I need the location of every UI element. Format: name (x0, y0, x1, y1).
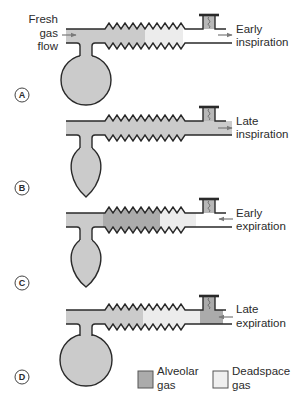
panel-a: Early inspiration (60, 14, 288, 105)
legend-deadspace-line1: Deadspace (232, 365, 290, 377)
phase-label-line1: Late (236, 115, 258, 127)
legend-item-alveolar: Alveolar gas (138, 365, 199, 391)
fresh-gas-label-line1: Fresh (29, 13, 58, 25)
svg-text:B: B (19, 183, 26, 193)
svg-text:D: D (19, 372, 26, 382)
phase-label-line2: expiration (236, 317, 286, 329)
legend: Alveolar gas Deadspace gas (138, 365, 290, 391)
panel-label-b: B (15, 181, 29, 195)
fresh-gas-flow-label: Fresh gas flow (29, 13, 59, 52)
reservoir-bag-collapsed (71, 148, 101, 197)
tube-gas-fill (60, 295, 223, 340)
tube-top-wall (66, 108, 226, 121)
phase-label-line1: Early (236, 23, 262, 35)
tube-gas-fill (60, 198, 215, 243)
legend-item-deadspace: Deadspace gas (213, 365, 290, 391)
panel-label-a: A (15, 88, 29, 102)
fresh-gas-label-line3: flow (38, 40, 59, 52)
phase-label-line2: expiration (236, 220, 286, 232)
panel-label-d: D (15, 370, 29, 384)
phase-label-line1: Late (236, 303, 258, 315)
reservoir-bag-full (61, 55, 111, 105)
tube-top-wall (66, 200, 226, 213)
phase-label-line2: inspiration (236, 128, 288, 140)
panel-b: Late inspiration (60, 106, 288, 197)
reservoir-bag-full (60, 334, 112, 386)
phase-label-line2: inspiration (236, 36, 288, 48)
tube-top-wall (66, 16, 226, 29)
svg-text:C: C (19, 278, 26, 288)
tube-top-wall (66, 297, 226, 310)
svg-text:A: A (19, 90, 26, 100)
legend-alveolar-line1: Alveolar (157, 365, 199, 377)
panel-label-c: C (15, 276, 29, 290)
phase-label-line1: Early (236, 207, 262, 219)
alveolar-swatch (138, 371, 153, 388)
tube-gas-fill (60, 14, 215, 59)
legend-deadspace-line2: gas (232, 379, 251, 391)
tube-gas-fill (60, 106, 235, 151)
reservoir-bag-collapsed (71, 240, 101, 287)
deadspace-swatch (213, 371, 228, 388)
legend-alveolar-line2: gas (157, 379, 176, 391)
fresh-gas-label-line2: gas (39, 27, 58, 39)
breathing-circuit-diagram: Fresh gas flow Early inspiration A (0, 0, 297, 400)
panel-c: Early expiration (60, 198, 286, 287)
